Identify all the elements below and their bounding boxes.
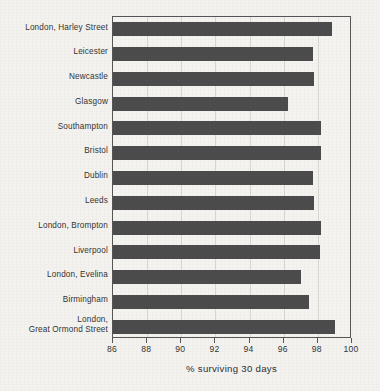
- axis-tick: [249, 338, 250, 343]
- x-axis-title: % surviving 30 days: [112, 363, 351, 374]
- category-label: London, Great Ormond Street: [0, 315, 108, 334]
- category-label: Bristol: [0, 146, 108, 156]
- bar: [113, 47, 313, 61]
- plot-area: [112, 16, 351, 338]
- bar: [113, 171, 313, 185]
- bar: [113, 121, 321, 135]
- axis-tick-label: 92: [209, 344, 219, 354]
- bar: [113, 22, 332, 36]
- bar: [113, 146, 321, 160]
- axis-tick-label: 96: [278, 344, 288, 354]
- bar: [113, 245, 320, 259]
- axis-tick-label: 100: [344, 344, 359, 354]
- axis-tick-label: 94: [244, 344, 254, 354]
- category-axis-labels: London, Harley StreetLeicesterNewcastleG…: [0, 16, 108, 338]
- category-label: Birmingham: [0, 295, 108, 305]
- bar: [113, 196, 314, 210]
- bar: [113, 270, 301, 284]
- value-axis: 86889092949698100: [112, 338, 351, 360]
- axis-tick-label: 88: [141, 344, 151, 354]
- category-label: Newcastle: [0, 72, 108, 82]
- bar-chart-figure: London, Harley StreetLeicesterNewcastleG…: [0, 0, 380, 391]
- axis-tick: [317, 338, 318, 343]
- bar: [113, 295, 309, 309]
- axis-tick: [146, 338, 147, 343]
- category-label: London, Evelina: [0, 270, 108, 280]
- category-label: Glasgow: [0, 97, 108, 107]
- axis-tick: [112, 338, 113, 343]
- axis-tick: [351, 338, 352, 343]
- category-label: London, Brompton: [0, 221, 108, 231]
- category-label: Leicester: [0, 47, 108, 57]
- bar: [113, 320, 335, 334]
- category-label: London, Harley Street: [0, 23, 108, 33]
- category-label: Liverpool: [0, 246, 108, 256]
- bar: [113, 97, 288, 111]
- axis-tick: [214, 338, 215, 343]
- category-label: Leeds: [0, 196, 108, 206]
- axis-tick-label: 86: [107, 344, 117, 354]
- category-label: Southampton: [0, 122, 108, 132]
- axis-tick: [180, 338, 181, 343]
- axis-tick-label: 98: [312, 344, 322, 354]
- axis-tick-label: 90: [175, 344, 185, 354]
- bar: [113, 72, 314, 86]
- axis-tick: [283, 338, 284, 343]
- category-label: Dublin: [0, 171, 108, 181]
- bar: [113, 221, 321, 235]
- gridline: [318, 17, 319, 337]
